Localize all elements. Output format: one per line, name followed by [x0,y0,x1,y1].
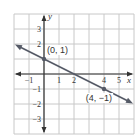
line-arrow-right-icon [125,98,133,104]
point-label: (0, 1) [47,45,68,55]
tick-labels: −1124532−1−2−3xy [25,11,131,124]
point-label: (4, −1) [86,93,112,103]
y-axis-arrow-down-icon [42,127,47,133]
y-tick-label: −2 [32,100,41,109]
data-point [42,57,46,61]
coordinate-plane: −1124532−1−2−3xy (0, 1)(4, −1) [0,0,138,138]
x-tick-label: 5 [117,76,121,85]
x-tick-label: 2 [72,76,76,85]
y-axis-label: y [47,11,52,21]
y-tick-label: −1 [32,85,41,94]
data-point [102,87,106,91]
y-tick-label: −3 [32,115,41,124]
y-tick-label: 2 [37,40,41,49]
x-axis-label: x [126,75,131,85]
line-arrow-left-icon [15,45,23,51]
y-tick-label: 3 [37,25,41,34]
x-axis-arrow-left-icon [15,72,21,77]
x-tick-label: 4 [102,76,106,85]
x-tick-label: 1 [57,76,61,85]
y-axis-arrow-up-icon [42,15,47,21]
x-tick-label: −1 [25,76,34,85]
